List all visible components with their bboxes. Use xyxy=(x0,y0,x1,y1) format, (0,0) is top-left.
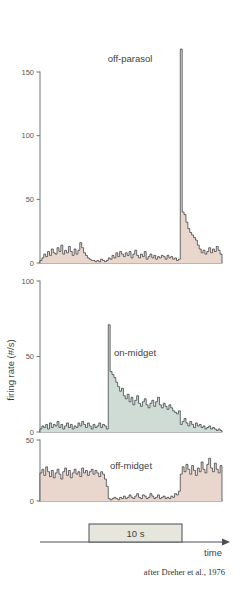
y-tick-label: 100 xyxy=(21,277,34,286)
panel-title-off-midget: off-midget xyxy=(110,460,152,471)
stimulus-duration-label: 10 s xyxy=(127,528,145,539)
y-tick-label: 0 xyxy=(30,259,34,268)
histogram-outline-off-parasol xyxy=(40,49,222,263)
panel-off-parasol: off-parasol 050100150 xyxy=(21,49,222,268)
stimulus-timeline: 10 s time xyxy=(40,524,230,558)
panel-off-midget: off-midget 050 xyxy=(26,436,222,506)
histogram-fill-off-parasol xyxy=(40,49,222,263)
y-axis-ticks-off-midget: 050 xyxy=(26,436,40,506)
y-tick-label: 0 xyxy=(30,497,34,506)
source-credit: after Dreher et al., 1976 xyxy=(144,567,225,577)
y-tick-label: 150 xyxy=(21,68,34,77)
histogram-fill-on-midget xyxy=(40,325,222,432)
y-tick-label: 50 xyxy=(26,352,34,361)
panel-on-midget: on-midget 050100 firing rate (#/s) xyxy=(5,277,222,437)
panel-title-on-midget: on-midget xyxy=(114,347,157,358)
y-axis-title: firing rate (#/s) xyxy=(5,339,16,400)
y-tick-label: 50 xyxy=(26,195,34,204)
y-axis-ticks-off-parasol: 050100150 xyxy=(21,68,40,268)
y-tick-label: 100 xyxy=(21,131,34,140)
figure-canvas: off-parasol 050100150 on-midget 050100 f… xyxy=(0,0,242,593)
time-axis-label: time xyxy=(204,547,222,558)
y-tick-label: 50 xyxy=(26,436,34,445)
time-axis-arrow-icon xyxy=(222,539,230,546)
y-axis-ticks-on-midget: 050100 xyxy=(21,277,40,437)
neural-firing-rate-figure: off-parasol 050100150 on-midget 050100 f… xyxy=(0,0,242,593)
panel-title-off-parasol: off-parasol xyxy=(108,53,153,64)
